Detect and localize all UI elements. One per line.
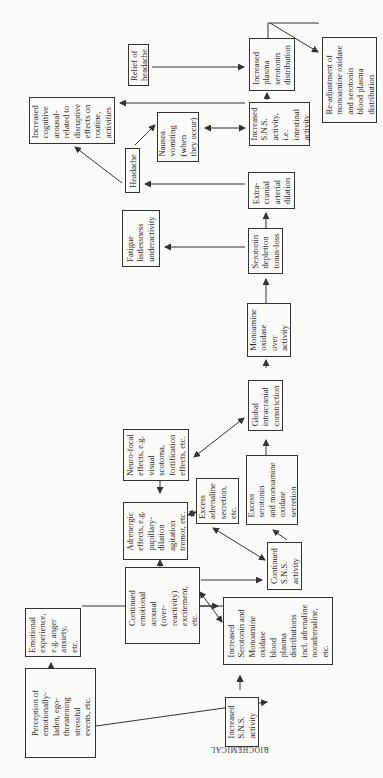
- node-increased-sns-intestinal: Increased S.N.S. activity, i.e. intestin…: [249, 102, 310, 146]
- node-neuro-focal: Neuro-focal effects, e.g. visual scotoma…: [123, 429, 189, 481]
- flow-diagram: BEHAVIOURAL BIOCHEMICAL Perception of em…: [0, 0, 383, 778]
- node-continued-arousal: Continued emotional arousal (over- react…: [125, 567, 200, 644]
- node-increased-sns: Increased S.N.S. activity: [225, 697, 259, 747]
- node-readjustment: Re-adjustment of monoamine oxidase and s…: [322, 37, 377, 123]
- node-excess-adrenaline: Excess adrenaline secretion, etc.: [196, 478, 239, 524]
- node-headache: Headache: [125, 148, 140, 193]
- node-nausea: Nausea vomiting (when they occur): [157, 112, 199, 162]
- node-excess-serotonin-mao: Excess serotonin and monoamine oxidase s…: [246, 455, 298, 525]
- node-increased-plasma-serotonin: Increased plasma serotonin distribution: [249, 38, 295, 91]
- node-emotional-experience: Emotional experience, e.g. anger anxiety…: [25, 608, 81, 657]
- node-extracranial-dilation: Extra- cranial arterial dilation: [248, 172, 295, 209]
- node-mao-overactivity: Monoamine oxidase over activity: [247, 303, 291, 357]
- node-continued-sns: Continued S.N.S. activity: [267, 542, 302, 590]
- node-fatigue: Fatigue listlessness underactivity: [122, 210, 160, 267]
- node-adrenergic: Adrenergic effects, e.g. pupillary- dila…: [123, 502, 188, 560]
- node-global-constriction: Global intracranial constriction: [248, 380, 283, 431]
- node-perception: Perception of emotionally- laden, ego- t…: [25, 668, 96, 758]
- node-relief: Relief of headache: [128, 44, 149, 86]
- node-increased-serotonin-mao: Increased Serotonin and Monoamine oxidas…: [223, 597, 333, 665]
- node-cognitive-arousal: Increased cognitive arousal- related to …: [29, 97, 115, 144]
- node-serotonin-depletion: Serotonin depletion tonus-loss: [248, 228, 283, 274]
